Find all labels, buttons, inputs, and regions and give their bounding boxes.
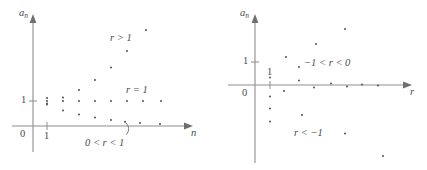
right-panel-graphics	[214, 0, 427, 170]
right-y-axis-arrowhead	[252, 14, 259, 23]
left-origin-label: 0	[20, 129, 25, 140]
right-annotation-r-between-neg1-and-0: −1 < r < 0	[304, 58, 350, 69]
chart-panel-left: an n 1 0 1 r > 1 r = 1 0 < r < 1	[0, 0, 214, 170]
left-annotation-r-equals-1: r = 1	[126, 85, 148, 96]
right-x-tick-label-1: 1	[267, 67, 272, 78]
left-y-axis-arrowhead	[30, 14, 37, 23]
chart-panel-right: an r 1 0 1 −1 < r < 0 r < −1	[214, 0, 427, 170]
left-annotation-r-greater-than-1: r > 1	[110, 33, 132, 44]
right-annotation-r-less-than-neg1: r < −1	[294, 128, 323, 139]
right-y-tick-label-1: 1	[243, 56, 248, 67]
right-series-r-between-neg1-and-0	[269, 76, 379, 97]
left-annotation-r-between-0-and-1: 0 < r < 1	[85, 138, 124, 149]
right-series-r-less-than-neg1	[269, 28, 384, 157]
left-y-tick-label-1: 1	[21, 95, 26, 106]
figure-geometric-sequence-behavior: an n 1 0 1 r > 1 r = 1 0 < r < 1	[0, 0, 427, 170]
left-y-axis-label: an	[19, 8, 28, 19]
left-series-r-equals-1	[46, 100, 162, 102]
left-x-tick-label-1: 1	[44, 131, 49, 142]
right-y-axis-label: an	[240, 8, 249, 19]
left-annotation-pointer-hook	[126, 123, 129, 135]
right-x-axis-label: r	[410, 87, 414, 98]
left-x-axis-label: n	[191, 128, 196, 139]
right-origin-label: 0	[242, 88, 247, 99]
